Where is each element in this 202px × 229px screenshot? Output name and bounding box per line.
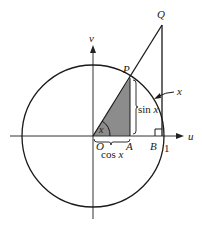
label-v-axis: v: [89, 32, 94, 44]
diagram-canvas: v u Q P x sin x x O A B 1 cos x: [0, 0, 202, 229]
arc-pointer-arrowhead: [154, 93, 161, 99]
label-b: B: [150, 140, 157, 152]
label-angle-x: x: [98, 124, 104, 135]
label-cos-x: cos x: [101, 148, 123, 160]
v-axis-arrow: [90, 45, 96, 53]
right-angle-marker: [155, 129, 162, 136]
label-sin-x: sin x: [138, 103, 159, 115]
unit-circle-diagram: v u Q P x sin x x O A B 1 cos x: [0, 0, 202, 229]
label-u-axis: u: [188, 130, 194, 142]
label-x-arc: x: [176, 85, 182, 97]
u-axis-arrow: [176, 133, 184, 139]
label-q: Q: [157, 8, 165, 20]
label-p: P: [122, 63, 130, 75]
label-one: 1: [164, 142, 170, 154]
label-a: A: [125, 140, 133, 152]
